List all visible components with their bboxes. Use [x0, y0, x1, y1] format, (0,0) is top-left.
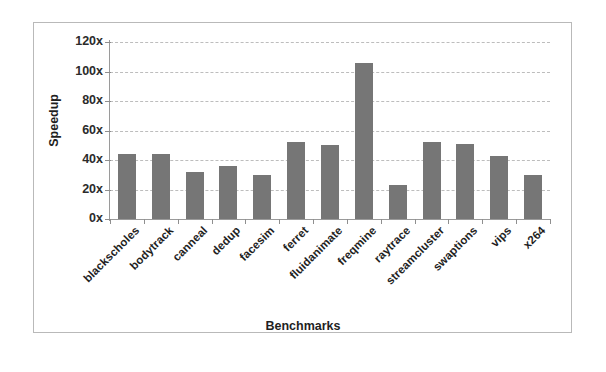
bar-slot	[516, 42, 550, 219]
y-axis-tick-label: 80x	[82, 93, 103, 107]
bar	[118, 154, 136, 219]
y-axis-tick-label: 120x	[75, 34, 103, 48]
chart-figure: Speedup 0x20x40x60x80x100x120x blackscho…	[0, 0, 606, 372]
bar-slot	[110, 42, 144, 219]
y-axis-tick-label: 0x	[89, 211, 103, 225]
y-axis-tick-label: 100x	[75, 64, 103, 78]
bar-slot	[212, 42, 246, 219]
x-axis-tick	[110, 219, 111, 224]
bar-slot	[381, 42, 415, 219]
bar-slot	[245, 42, 279, 219]
y-axis-title: Speedup	[47, 94, 61, 147]
y-axis-tick-label: 60x	[82, 123, 103, 137]
x-axis-title: Benchmarks	[0, 319, 606, 333]
bar-slot	[415, 42, 449, 219]
bar-slot	[279, 42, 313, 219]
y-axis-tick-label: 20x	[82, 182, 103, 196]
y-axis-tick-label: 40x	[82, 152, 103, 166]
bar-slot	[313, 42, 347, 219]
